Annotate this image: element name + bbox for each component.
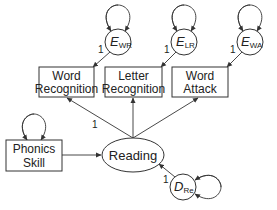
svg-text:Word: Word	[52, 69, 80, 83]
svg-text:Letter: Letter	[118, 69, 149, 83]
loading-reading-word-recognition	[67, 98, 133, 138]
path-label-d-re: 1	[163, 174, 169, 185]
latent-node-reading: Reading	[102, 138, 164, 172]
error-node-e-lr: ELR	[171, 29, 197, 55]
svg-text:Word: Word	[186, 69, 214, 83]
loading-label-word-recognition: 1	[92, 119, 98, 130]
path-label-e-wa: 1	[230, 44, 236, 55]
observed-node-word-recognition: Word Recognition	[35, 67, 98, 97]
variance-loop-e-wr	[106, 5, 130, 31]
svg-text:Recognition: Recognition	[102, 82, 165, 96]
svg-text:Recognition: Recognition	[35, 82, 98, 96]
svg-text:Phonics: Phonics	[13, 142, 56, 156]
svg-text:Skill: Skill	[23, 156, 45, 170]
observed-node-letter-recognition: Letter Recognition	[102, 67, 165, 97]
observed-node-phonics-skill: Phonics Skill	[6, 140, 62, 171]
disturbance-node-d-re: DRe	[170, 174, 196, 200]
variance-loop-phonics	[22, 114, 45, 140]
svg-text:Reading: Reading	[109, 148, 157, 163]
path-label-e-lr: 1	[164, 44, 170, 55]
path-label-e-wr: 1	[98, 44, 104, 55]
observed-node-word-attack: Word Attack	[172, 67, 228, 97]
svg-text:Attack: Attack	[183, 82, 217, 96]
variance-loop-d-re	[195, 175, 221, 198]
path-diagram: 1 1 1 1 1 EWR ELR EWA Word Recognition L…	[0, 0, 277, 210]
variance-loop-e-wa	[238, 5, 262, 31]
error-node-e-wa: EWA	[237, 29, 263, 55]
loading-reading-word-attack	[133, 98, 198, 138]
error-node-e-wr: EWR	[105, 29, 132, 55]
variance-loop-e-lr	[172, 5, 196, 31]
